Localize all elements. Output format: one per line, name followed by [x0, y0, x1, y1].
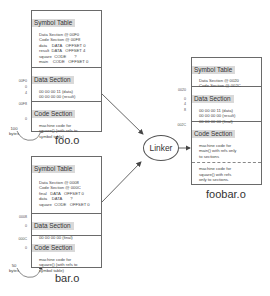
bar-symbol-table: Symbol Table Data Section @ 0008 Code Se… — [32, 157, 101, 214]
foobar-file-label: foobar.o — [206, 188, 246, 200]
foo-data-line: 00 00 00 00 (result) — [39, 94, 101, 99]
foo-addr-code-start: 00F8 — [3, 102, 27, 106]
foobar-object-file: Symbol Table Data Section @ 0020 Code Se… — [191, 57, 262, 185]
bar-code-section: Code Section machine code for square() (… — [32, 236, 101, 273]
bar-symbol-line: square CODE OFFSET 0 — [39, 202, 101, 207]
foobar-code-section: Code Section machine code for main() wit… — [192, 122, 261, 182]
bar-symbol-table-header: Symbol Table — [32, 165, 75, 173]
foobar-code-square-line: only to sections. — [199, 177, 261, 182]
foo-size-label: 100 bytes — [4, 126, 24, 136]
foo-to-linker-arrow — [101, 93, 143, 134]
bar-data-section-header: Data Section — [32, 222, 74, 230]
foobar-addr-data-0: 0 — [162, 97, 186, 101]
foo-addr-data-0: 0 — [3, 85, 27, 89]
bar-code-section-header: Code Section — [32, 244, 75, 252]
foo-data-section: Data Section 00 00 00 11 (data) 00 00 00… — [32, 68, 101, 102]
foobar-code-main: machine code for main() with refs only t… — [192, 140, 261, 163]
bar-data-section: Data Section 00 00 00 00 (final) — [32, 214, 101, 236]
foo-file-label: foo.o — [55, 134, 79, 146]
foo-code-section-header: Code Section — [32, 110, 75, 118]
bar-addr-data-0: 0 — [3, 224, 27, 228]
foobar-data-section: Data Section 00 00 00 11 (data) 00 00 00… — [192, 87, 261, 122]
bar-object-file: Symbol Table Data Section @ 0008 Code Se… — [31, 156, 102, 268]
foobar-addr-data-4: 4 — [162, 102, 186, 106]
bar-size-label: 50 bytes — [4, 263, 24, 273]
bar-addr-data-start: 0008 — [3, 215, 27, 219]
foo-object-file: Symbol Table Data Section @ 00F0 Code Se… — [31, 10, 102, 132]
foo-symbol-line: main CODE OFFSET 0 — [39, 59, 101, 64]
foobar-addr-data-8: 8 — [162, 108, 186, 112]
foo-addr-code-0: 0 — [3, 117, 27, 121]
foo-symbol-table-header: Symbol Table — [32, 19, 75, 27]
bar-file-label: bar.o — [55, 272, 79, 284]
foo-symbol-table: Symbol Table Data Section @ 00F0 Code Se… — [32, 11, 101, 68]
bar-addr-code-start: 000C — [3, 237, 27, 241]
foo-data-section-header: Data Section — [32, 76, 74, 84]
foobar-addr-code-start: 002C — [162, 123, 186, 127]
linker-label: Linker — [150, 143, 173, 153]
linker-node: Linker — [143, 135, 179, 161]
foobar-symbol-table: Symbol Table Data Section @ 0020 Code Se… — [192, 58, 261, 87]
foobar-code-square: machine code for square() with refs only… — [192, 163, 261, 182]
foobar-symbol-table-header: Symbol Table — [192, 66, 235, 74]
bar-addr-code-0: 0 — [3, 246, 27, 250]
foobar-data-section-header: Data Section — [192, 95, 234, 103]
foo-addr-data-4: 4 — [3, 91, 27, 95]
bar-to-linker-arrow — [101, 162, 141, 203]
foobar-addr-data-start: 0020 — [162, 88, 186, 92]
foobar-code-section-header: Code Section — [192, 130, 235, 138]
foobar-code-main-line: to sections — [199, 154, 261, 159]
foo-addr-data-start: 00F0 — [3, 79, 27, 83]
